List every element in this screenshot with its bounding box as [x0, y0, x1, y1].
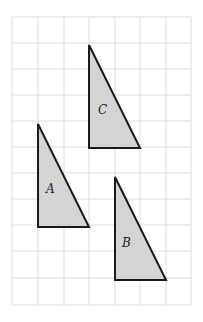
grid-diagram: C A B	[0, 0, 203, 322]
triangle-a-label: A	[45, 182, 55, 196]
triangle-c-label: C	[98, 103, 107, 117]
triangle-b-label: B	[121, 236, 131, 250]
